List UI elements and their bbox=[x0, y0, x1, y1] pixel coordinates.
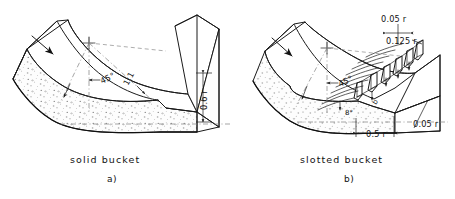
dim-thick-005r-label: 0.05 r bbox=[413, 119, 439, 129]
caption-title-b: slotted bucket bbox=[300, 154, 383, 165]
angle-8-label: 8° bbox=[345, 109, 353, 117]
caption-title-a: solid bucket bbox=[70, 154, 140, 165]
dim-06r-label: 0.6 r bbox=[199, 90, 209, 110]
caption-sub-a: a) bbox=[107, 174, 117, 184]
caption-sub-b: b) bbox=[344, 174, 354, 184]
figure-root: 45° 1:1 0.6 r solid bucket a) bbox=[0, 0, 455, 199]
dim-gap-005r-label: 0.05 r bbox=[381, 14, 407, 24]
engineering-figure: 45° 1:1 0.6 r solid bucket a) bbox=[0, 0, 455, 199]
dim-0125r-label: 0.125 r bbox=[386, 36, 417, 46]
dim-0125r-group: 0.125 r bbox=[386, 36, 422, 46]
dim-05r-label: 0.5 r bbox=[366, 129, 386, 139]
